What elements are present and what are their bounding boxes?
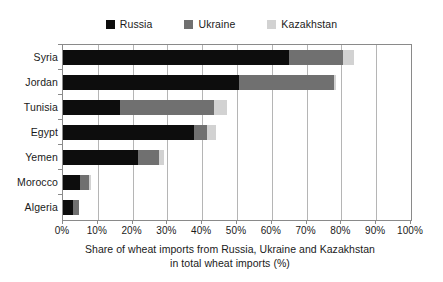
- bar-row: [63, 70, 411, 95]
- bar-segment-morocco-russia[interactable]: [63, 175, 80, 190]
- bar-stack-morocco[interactable]: [63, 175, 91, 190]
- bar-stack-yemen[interactable]: [63, 150, 164, 165]
- bar-segment-egypt-ukraine[interactable]: [194, 125, 208, 140]
- bar-segment-syria-russia[interactable]: [63, 50, 289, 65]
- bar-segment-syria-kazakhstan[interactable]: [343, 50, 353, 65]
- bar-segment-algeria-russia[interactable]: [63, 200, 73, 215]
- legend-item-ukraine[interactable]: Ukraine: [184, 19, 235, 30]
- x-axis-tick-labels: 0%10%20%30%40%50%60%70%80%90%100%: [0, 225, 443, 239]
- stacked-bar-chart: Russia Ukraine Kazakhstan SyriaJordanTun…: [0, 0, 443, 282]
- x-tick-mark-80: [340, 220, 341, 224]
- bar-segment-algeria-ukraine[interactable]: [73, 200, 78, 215]
- x-tick-label-100: 100%: [388, 225, 432, 237]
- bar-segment-tunisia-ukraine[interactable]: [120, 100, 214, 115]
- y-axis-labels: SyriaJordanTunisiaEgyptYemenMoroccoAlger…: [0, 44, 58, 219]
- bar-segment-yemen-kazakhstan[interactable]: [159, 150, 164, 165]
- bar-segment-morocco-ukraine[interactable]: [80, 175, 89, 190]
- bar-stack-syria[interactable]: [63, 50, 354, 65]
- x-tick-mark-100: [410, 220, 411, 224]
- bar-row: [63, 145, 411, 170]
- y-tick-label-egypt: Egypt: [0, 126, 58, 138]
- bar-row: [63, 195, 411, 220]
- legend-swatch-ukraine: [184, 20, 193, 29]
- legend-label-kazakhstan: Kazakhstan: [281, 19, 337, 30]
- legend-label-russia: Russia: [120, 19, 153, 30]
- bar-row: [63, 95, 411, 120]
- bar-segment-yemen-russia[interactable]: [63, 150, 138, 165]
- bar-segment-yemen-ukraine[interactable]: [138, 150, 159, 165]
- x-tick-mark-50: [236, 220, 237, 224]
- x-tick-mark-30: [166, 220, 167, 224]
- bar-row: [63, 170, 411, 195]
- y-tick-label-morocco: Morocco: [0, 176, 58, 188]
- y-tick-label-algeria: Algeria: [0, 201, 58, 213]
- bar-segment-morocco-kazakhstan[interactable]: [89, 175, 91, 190]
- bar-segment-egypt-russia[interactable]: [63, 125, 194, 140]
- x-axis-title: Share of wheat imports from Russia, Ukra…: [40, 242, 420, 270]
- x-tick-mark-60: [271, 220, 272, 224]
- bar-stack-algeria[interactable]: [63, 200, 79, 215]
- x-axis-title-line-1: Share of wheat imports from Russia, Ukra…: [40, 242, 420, 256]
- bar-segment-syria-ukraine[interactable]: [289, 50, 343, 65]
- bar-stack-jordan[interactable]: [63, 75, 336, 90]
- chart-legend: Russia Ukraine Kazakhstan: [0, 16, 443, 32]
- bar-stack-tunisia[interactable]: [63, 100, 227, 115]
- y-tick-label-syria: Syria: [0, 51, 58, 63]
- bar-segment-egypt-kazakhstan[interactable]: [207, 125, 216, 140]
- x-tick-mark-70: [306, 220, 307, 224]
- bars-layer: [63, 45, 411, 220]
- x-axis-title-line-2: in total wheat imports (%): [40, 256, 420, 270]
- x-tick-mark-40: [201, 220, 202, 224]
- bar-row: [63, 120, 411, 145]
- y-tick-label-jordan: Jordan: [0, 76, 58, 88]
- legend-item-kazakhstan[interactable]: Kazakhstan: [267, 19, 337, 30]
- legend-item-russia[interactable]: Russia: [106, 19, 153, 30]
- x-tick-mark-20: [132, 220, 133, 224]
- plot-area: [62, 44, 412, 221]
- x-tick-mark-10: [97, 220, 98, 224]
- bar-segment-tunisia-kazakhstan[interactable]: [214, 100, 226, 115]
- bar-segment-jordan-russia[interactable]: [63, 75, 239, 90]
- bar-segment-jordan-ukraine[interactable]: [239, 75, 335, 90]
- legend-swatch-kazakhstan: [267, 20, 276, 29]
- bar-stack-egypt[interactable]: [63, 125, 216, 140]
- x-tick-mark-0: [62, 220, 63, 224]
- bar-segment-jordan-kazakhstan[interactable]: [334, 75, 336, 90]
- y-tick-label-tunisia: Tunisia: [0, 101, 58, 113]
- x-tick-mark-90: [375, 220, 376, 224]
- bar-segment-tunisia-russia[interactable]: [63, 100, 120, 115]
- y-tick-label-yemen: Yemen: [0, 151, 58, 163]
- legend-label-ukraine: Ukraine: [198, 19, 235, 30]
- bar-row: [63, 45, 411, 70]
- legend-swatch-russia: [106, 20, 115, 29]
